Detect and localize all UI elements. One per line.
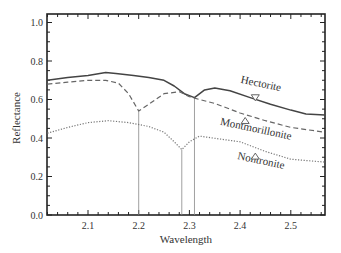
x-axis-title: Wavelength (160, 233, 213, 245)
y-tick-label: 0.4 (31, 133, 44, 144)
series-label-hectorite: Hectorite (240, 73, 283, 93)
series-hectorite-line (47, 73, 324, 115)
series-label-nontronite: Nontronite (237, 149, 286, 171)
x-tick-label: 2.3 (183, 220, 196, 231)
plot-frame (47, 14, 325, 215)
y-tick-label: 0.2 (31, 171, 44, 182)
y-tick-label: 0.8 (31, 56, 44, 67)
series-nontronite-line (47, 121, 324, 162)
series-lines (47, 73, 324, 163)
reflectance-chart: 2.12.22.32.42.50.00.20.40.60.81.0 Hector… (0, 0, 341, 253)
y-tick-label: 0.6 (31, 94, 44, 105)
x-tick-label: 2.5 (285, 220, 298, 231)
series-label-montmorillonite: Montmorillonite (219, 115, 293, 142)
y-tick-label: 1.0 (31, 17, 44, 28)
y-tick-label: 0.0 (31, 210, 44, 221)
x-tick-label: 2.1 (82, 220, 95, 231)
plot-border (47, 14, 325, 215)
x-tick-label: 2.4 (234, 220, 247, 231)
axis-ticks: 2.12.22.32.42.50.00.20.40.60.81.0 (31, 14, 326, 231)
x-tick-label: 2.2 (132, 220, 145, 231)
y-axis-title: Reflectance (10, 92, 22, 144)
absorption-lines (139, 98, 195, 215)
series-montmorillonite-line (47, 80, 324, 132)
